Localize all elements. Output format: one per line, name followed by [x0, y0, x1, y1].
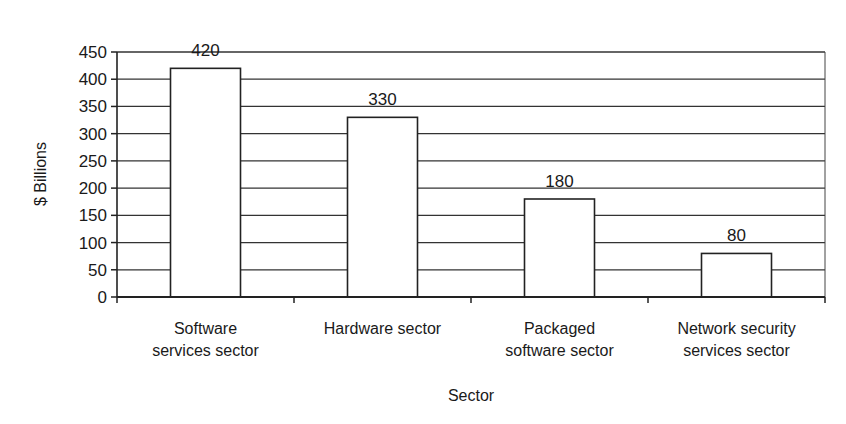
category-label: Hardware sector [324, 320, 442, 337]
y-tick-label: 400 [79, 70, 107, 89]
bar [171, 68, 241, 297]
category-label: Packaged [524, 320, 595, 337]
y-axis-ticks: 050100150200250300350400450 [79, 43, 117, 307]
bar-chart: 050100150200250300350400450 42033018080 … [0, 0, 846, 424]
bar-value-label: 180 [545, 172, 573, 191]
x-axis-category-labels: Softwareservices sectorHardware sectorPa… [152, 320, 795, 359]
y-tick-label: 150 [79, 206, 107, 225]
category-label: software sector [505, 342, 614, 359]
category-label: services sector [683, 342, 790, 359]
y-tick-label: 200 [79, 179, 107, 198]
y-axis-title: $ Billions [32, 142, 49, 206]
x-axis-title: Sector [448, 387, 495, 404]
bar [525, 199, 595, 297]
category-label: services sector [152, 342, 259, 359]
bar-value-label: 420 [191, 41, 219, 60]
y-tick-label: 250 [79, 152, 107, 171]
y-tick-label: 50 [88, 261, 107, 280]
bar-value-label: 330 [368, 90, 396, 109]
category-label: Software [174, 320, 237, 337]
y-tick-label: 300 [79, 125, 107, 144]
y-tick-label: 0 [98, 288, 107, 307]
y-tick-label: 100 [79, 234, 107, 253]
y-tick-label: 450 [79, 43, 107, 62]
category-label: Network security [677, 320, 795, 337]
bar-value-label: 80 [727, 226, 746, 245]
bar [702, 253, 772, 297]
bar [348, 117, 418, 297]
y-tick-label: 350 [79, 97, 107, 116]
